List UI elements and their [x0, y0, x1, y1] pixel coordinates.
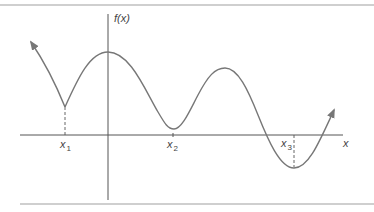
x3-label-base: x	[281, 137, 287, 149]
x2-label-base: x	[167, 138, 173, 150]
curve-left-branch	[31, 42, 65, 107]
x2-label-sub: 2	[174, 144, 178, 153]
x1-label-sub: 1	[67, 144, 71, 153]
y-axis-label: f(x)	[114, 13, 130, 24]
x2-label: x2	[167, 139, 178, 153]
x1-label: x1	[60, 139, 71, 153]
function-graph-figure: f(x) x x1 x2 x3	[0, 0, 374, 212]
x-axis-label: x	[343, 138, 349, 149]
x1-label-base: x	[60, 138, 66, 150]
x3-label: x3	[281, 138, 292, 152]
x3-label-sub: 3	[288, 143, 292, 152]
graph-svg	[0, 0, 374, 212]
